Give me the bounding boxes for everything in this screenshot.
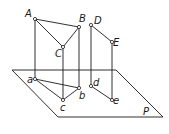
vertex-point-D bbox=[89, 23, 92, 26]
edge-DE bbox=[91, 25, 112, 42]
projection-diagram: P ABCDEabcde bbox=[0, 0, 169, 134]
vertex-label-B: B bbox=[79, 13, 86, 24]
vertex-label-D: D bbox=[94, 15, 102, 26]
vertex-point-B bbox=[77, 25, 80, 28]
edge-bc bbox=[63, 88, 79, 100]
vertex-point-a bbox=[33, 77, 36, 80]
edge-de bbox=[91, 86, 112, 100]
vertex-point-A bbox=[33, 17, 36, 20]
vertex-label-E: E bbox=[113, 37, 120, 48]
plane-label: P bbox=[143, 106, 150, 117]
figure-edges bbox=[35, 19, 112, 100]
vertex-label-A: A bbox=[24, 8, 32, 19]
vertex-label-C: C bbox=[55, 48, 62, 59]
edge-BC bbox=[63, 27, 79, 47]
vertex-label-a: a bbox=[27, 74, 33, 85]
vertex-label-e: e bbox=[113, 95, 119, 106]
vertex-label-c: c bbox=[60, 102, 66, 113]
vertex-label-d: d bbox=[93, 77, 100, 88]
vertex-label-b: b bbox=[79, 90, 85, 101]
